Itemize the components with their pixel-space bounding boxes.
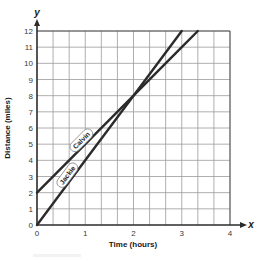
y-tick-label: 3 (29, 173, 34, 182)
x-axis-title: Time (hours) (109, 240, 158, 249)
grid (37, 31, 230, 225)
x-axis-variable: x (247, 219, 254, 230)
y-tick-label: 2 (29, 189, 34, 198)
y-axis-arrow-icon (34, 19, 40, 26)
x-axis-arrow-icon (240, 222, 247, 228)
y-tick-label: 5 (29, 140, 34, 149)
y-tick-label: 0 (29, 221, 34, 230)
y-axis-title: Distance (miles) (3, 97, 12, 159)
x-tick-label: 3 (180, 229, 185, 238)
distance-time-chart: y x 012340123456789101112 Time (hours) D… (0, 0, 263, 263)
y-tick-label: 7 (29, 108, 34, 117)
y-tick-label: 9 (29, 76, 34, 85)
scan-artifact (33, 254, 81, 257)
x-tick-label: 2 (131, 229, 136, 238)
x-tick-label: 1 (83, 229, 88, 238)
y-tick-label: 6 (29, 124, 34, 133)
y-axis-variable: y (33, 7, 40, 18)
y-tick-label: 10 (24, 59, 33, 68)
x-tick-label: 0 (35, 229, 40, 238)
y-tick-label: 8 (29, 92, 34, 101)
tick-labels: 012340123456789101112 (24, 27, 233, 238)
axes: y x (33, 7, 254, 230)
y-tick-label: 11 (25, 43, 34, 52)
y-tick-label: 4 (29, 156, 34, 165)
series-labels: Calvin Jackie (55, 127, 95, 190)
x-tick-label: 4 (228, 229, 233, 238)
chart-canvas: y x 012340123456789101112 Time (hours) D… (0, 0, 263, 263)
y-tick-label: 12 (24, 27, 33, 36)
y-tick-label: 1 (29, 205, 34, 214)
